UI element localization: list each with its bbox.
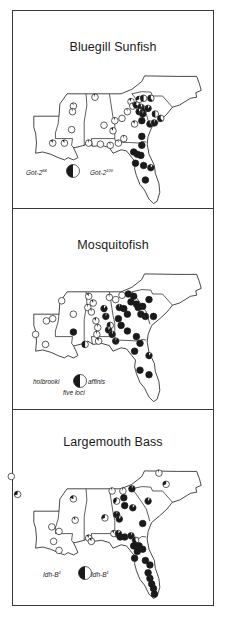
sample-site-marker — [146, 352, 153, 359]
sample-site-marker — [137, 367, 144, 374]
sample-site-marker — [56, 528, 63, 535]
sample-site-marker — [85, 293, 92, 300]
sample-site-marker — [56, 547, 63, 554]
sample-site-marker — [116, 516, 123, 523]
sample-site-marker — [145, 105, 152, 112]
sample-site-marker — [124, 311, 131, 318]
sample-site-marker — [95, 338, 102, 345]
state-border — [84, 292, 87, 344]
sample-site-marker — [112, 117, 119, 124]
state-border — [109, 489, 114, 534]
sample-site-marker — [120, 488, 127, 495]
legend-key-circle — [74, 375, 87, 388]
sample-site-marker — [147, 562, 154, 569]
sample-site-marker — [82, 341, 89, 348]
sample-site-marker — [139, 546, 146, 553]
pie-wedge — [79, 567, 86, 580]
sample-site-marker — [151, 591, 158, 598]
sample-site-marker — [101, 122, 108, 129]
sample-site-marker — [139, 111, 146, 118]
sample-site-marker — [147, 164, 154, 171]
sample-site-marker — [97, 141, 104, 148]
sample-site-marker — [121, 502, 128, 509]
sample-site-marker — [58, 298, 65, 305]
sample-site-marker — [88, 538, 95, 545]
sample-site-marker — [129, 486, 136, 493]
sample-site-marker — [139, 142, 146, 149]
sample-site-marker — [142, 313, 149, 320]
panel-bluegill-sunfish: Bluegill Sunfish Got-284 Got-2100 — [13, 11, 213, 208]
sample-site-marker — [61, 140, 68, 147]
sample-site-marker — [151, 120, 158, 127]
sample-site-marker — [102, 515, 109, 522]
pie-wedge — [67, 165, 74, 178]
sample-site-marker — [50, 538, 57, 545]
sample-site-marker — [119, 115, 126, 122]
sample-site-marker — [139, 117, 146, 124]
sample-site-marker — [132, 160, 139, 167]
sample-site-marker — [94, 331, 101, 338]
sample-site-marker — [72, 517, 79, 524]
figure-frame: Bluegill Sunfish Got-284 Got-2100 Mosqui… — [12, 10, 214, 606]
sample-site-marker — [140, 95, 147, 102]
legend-left-label: Got-284 — [26, 168, 47, 176]
sample-site-marker — [145, 498, 152, 505]
pie-wedge — [130, 505, 137, 512]
sample-site-marker — [124, 108, 131, 115]
map-bluegill-sunfish — [13, 11, 213, 208]
sample-site-marker — [142, 177, 149, 184]
sample-site-marker — [139, 303, 146, 310]
sample-site-marker — [115, 140, 122, 147]
sample-site-marker — [92, 94, 99, 101]
sample-site-marker — [138, 152, 145, 159]
sample-site-marker — [140, 162, 147, 169]
legend-note: five loci — [63, 389, 85, 396]
sample-site-marker — [70, 329, 77, 336]
sample-site-marker — [119, 292, 126, 299]
sample-site-marker — [106, 294, 113, 301]
state-border — [55, 511, 73, 542]
sample-site-marker — [85, 140, 92, 147]
sample-site-marker — [121, 135, 128, 142]
sample-site-marker — [146, 296, 153, 303]
state-border — [132, 487, 173, 503]
sample-site-marker — [139, 133, 146, 140]
pie-wedge — [112, 338, 119, 345]
sample-site-marker — [8, 473, 15, 480]
sample-site-marker — [139, 520, 146, 527]
sample-site-marker — [131, 121, 138, 128]
sample-site-marker — [70, 311, 77, 318]
sample-site-marker — [137, 340, 144, 347]
sample-site-marker — [103, 313, 110, 320]
sample-site-marker — [124, 328, 131, 335]
sample-site-marker — [42, 341, 49, 348]
sample-site-marker — [88, 309, 95, 316]
legend-left-label: Idh-B2 — [43, 570, 61, 578]
sample-site-marker — [146, 371, 153, 378]
legend-right-label: Idh-B1 — [91, 570, 109, 578]
sample-site-marker — [49, 315, 56, 322]
sample-site-marker — [130, 505, 137, 512]
sample-site-marker — [109, 331, 116, 338]
sample-site-marker — [121, 534, 128, 541]
sample-site-marker — [157, 115, 164, 122]
legend-right-label: Got-2100 — [90, 168, 113, 176]
legend-key-circle — [79, 567, 92, 580]
sample-site-marker — [32, 331, 39, 338]
sample-site-marker — [152, 111, 159, 118]
sample-site-marker — [148, 95, 155, 102]
sample-site-marker — [70, 496, 77, 503]
sample-site-marker — [156, 470, 163, 477]
sample-site-marker — [49, 524, 56, 531]
sample-site-marker — [118, 322, 125, 329]
sample-site-marker — [14, 491, 21, 498]
sample-site-marker — [109, 488, 116, 495]
sample-site-marker — [93, 318, 100, 325]
sample-site-marker — [94, 324, 101, 331]
sample-site-marker — [107, 142, 114, 149]
sample-site-marker — [43, 318, 50, 325]
sample-site-marker — [133, 333, 140, 340]
sample-site-marker — [131, 348, 138, 355]
sample-site-marker — [163, 481, 170, 488]
sample-site-marker — [112, 296, 119, 303]
